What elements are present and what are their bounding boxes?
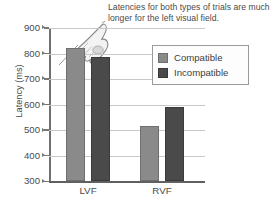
y-tick-label-700: 700: [10, 73, 40, 84]
x-tick-label-rvf: RVF: [142, 185, 182, 196]
legend-item-compatible[interactable]: Compatible: [158, 50, 240, 65]
chart-annotation-text: Latencies for both types of trials are m…: [108, 2, 270, 25]
gridline-900: [49, 28, 205, 29]
y-tick-label-800: 800: [10, 48, 40, 59]
y-tick-label-600: 600: [10, 99, 40, 110]
y-tick-label-500: 500: [10, 124, 40, 135]
bar-rvf-incompatible[interactable]: [165, 107, 184, 181]
bar-lvf-compatible[interactable]: [66, 48, 85, 181]
legend-swatch-compatible: [158, 53, 168, 63]
x-axis-line: [49, 181, 205, 183]
bar-lvf-incompatible[interactable]: [91, 57, 110, 181]
bar-chart-figure: Latencies for both types of trials are m…: [0, 0, 272, 210]
legend-item-incompatible[interactable]: Incompatible: [158, 65, 240, 80]
bar-rvf-compatible[interactable]: [140, 126, 159, 181]
y-tick-label-900: 900: [10, 22, 40, 33]
legend-swatch-incompatible: [158, 68, 168, 78]
y-tick-label-300: 300: [10, 175, 40, 186]
y-tick-label-400: 400: [10, 150, 40, 161]
legend-label-compatible: Compatible: [174, 52, 223, 63]
x-tick-label-lvf: LVF: [68, 185, 108, 196]
legend-label-incompatible: Incompatible: [174, 67, 228, 78]
chart-legend: Compatible Incompatible: [152, 45, 249, 85]
